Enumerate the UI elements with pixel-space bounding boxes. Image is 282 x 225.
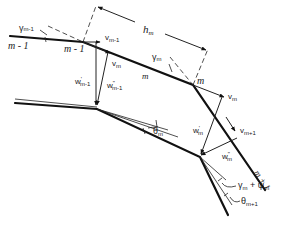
gamma-m-1-tick xyxy=(45,37,46,42)
gamma-m-leader xyxy=(169,64,172,72)
vectors-node-m-1 xyxy=(83,42,110,105)
label-v-m-upper: vm xyxy=(112,59,121,69)
label-m-1-node: m - 1 xyxy=(64,43,85,54)
gamma-psi-tick xyxy=(218,178,222,181)
label-m-1-left: m - 1 xyxy=(8,40,29,51)
theta-m-1-leader xyxy=(230,197,240,202)
label-m-node: m xyxy=(197,75,204,86)
label-w-dprime-m: w"m xyxy=(221,151,232,162)
label-v-m-right: vm xyxy=(228,92,237,102)
gamma-psi-leader xyxy=(222,183,236,187)
lower-beam-line xyxy=(15,99,232,215)
beam-segment-diagram: m - 1 m - 1 m m m + 1 γm-1 hm vm-1 vm γm… xyxy=(0,0,282,225)
label-v-m-plus-1: vm+1 xyxy=(240,126,257,136)
label-v-m-1: vm-1 xyxy=(105,33,120,43)
label-w-dprime-m-1: w"m-1 xyxy=(106,80,123,91)
label-w-prime-m: w'm xyxy=(192,125,203,136)
label-gamma-m: γm xyxy=(152,52,162,62)
upper-beam-line xyxy=(10,36,265,190)
label-h-m: hm xyxy=(143,23,154,37)
gamma-m-1-leader xyxy=(40,30,47,35)
label-w-prime-m-1: w'm-1 xyxy=(74,76,91,87)
label-gamma-m-1: γm-1 xyxy=(19,23,34,33)
label-m-segment: m xyxy=(142,71,149,81)
label-theta-m-plus-1: θm+1 xyxy=(241,196,259,207)
label-theta-m: θm xyxy=(153,126,163,137)
